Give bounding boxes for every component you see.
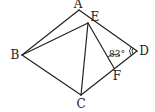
segment-be xyxy=(22,23,88,55)
segment-ef xyxy=(88,23,114,68)
point-label-f: F xyxy=(113,69,121,83)
point-label-a: A xyxy=(73,0,83,11)
angle-arc-d-inner xyxy=(132,48,133,54)
segment-ab xyxy=(22,10,79,55)
geometry-diagram: 83° A B C D E F xyxy=(0,0,155,112)
angle-arc-d xyxy=(130,47,132,55)
segment-ec xyxy=(81,23,88,95)
point-label-e: E xyxy=(91,10,100,24)
angle-label-83: 83° xyxy=(109,49,125,59)
point-label-d: D xyxy=(139,44,149,58)
point-label-c: C xyxy=(76,97,85,111)
segment-bc xyxy=(22,55,81,95)
point-label-b: B xyxy=(11,48,20,62)
